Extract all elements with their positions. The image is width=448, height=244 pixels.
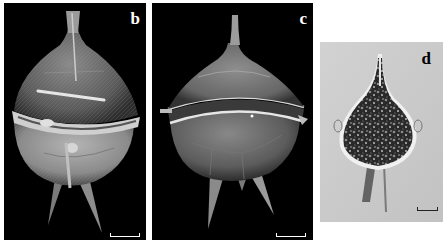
sem-cell-image-b xyxy=(4,3,146,240)
panel-label-b: b xyxy=(131,10,140,27)
micrograph-panel-b: b xyxy=(4,3,146,240)
scale-bar-c xyxy=(276,233,306,237)
scale-bar-b xyxy=(110,233,140,237)
scale-bar-d xyxy=(417,207,438,211)
micrograph-panel-c: c xyxy=(152,3,313,240)
micrograph-panel-d: d xyxy=(320,42,443,222)
sem-cell-image-c xyxy=(152,3,313,240)
light-micrograph-cell-image-d xyxy=(320,42,443,222)
panel-label-c: c xyxy=(299,10,307,27)
panel-label-d: d xyxy=(422,50,431,67)
